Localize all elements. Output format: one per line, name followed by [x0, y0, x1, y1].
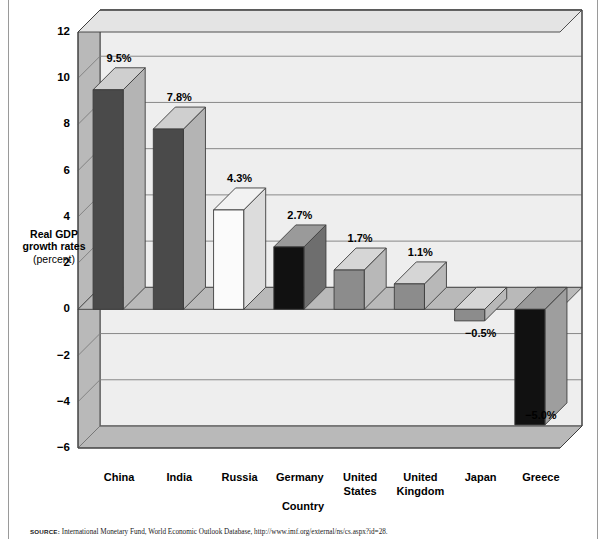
y-axis-tick: 12 [40, 26, 70, 37]
bar-value-label: 1.7% [328, 232, 392, 244]
source-note: SOURCE: International Monetary Fund, Wor… [30, 527, 590, 537]
y-axis-tick: 2 [40, 257, 70, 268]
source-label: SOURCE: [30, 528, 60, 535]
y-axis-tick: 6 [40, 165, 70, 176]
y-axis-tick: −4 [40, 396, 70, 407]
bar-value-label: 9.5% [87, 52, 151, 64]
bar-value-label: −5.0% [509, 409, 573, 421]
y-axis-tick: 0 [40, 303, 70, 314]
bar-value-label: −0.5% [449, 327, 513, 339]
y-axis-title-main: Real GDP growth rates [22, 228, 85, 252]
x-axis-title: Country [0, 500, 606, 512]
bar-value-label: 4.3% [208, 172, 272, 184]
y-axis-tick: 4 [40, 211, 70, 222]
y-axis-tick: −6 [40, 442, 70, 453]
y-axis-tick: −2 [40, 350, 70, 361]
bar-value-label: 1.1% [388, 246, 452, 258]
bar-value-label: 7.8% [147, 91, 211, 103]
gdp-growth-bar-chart [0, 0, 606, 470]
y-axis-tick: 10 [40, 72, 70, 83]
x-axis-tick: Greece [499, 471, 583, 485]
y-axis-tick: 8 [40, 118, 70, 129]
source-text: International Monetary Fund, World Econo… [62, 528, 388, 536]
bar-value-label: 2.7% [268, 209, 332, 221]
